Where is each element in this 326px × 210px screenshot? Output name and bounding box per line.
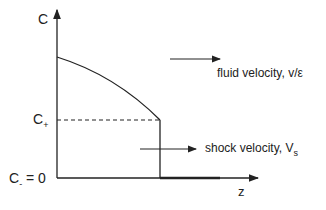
- shock-velocity-sub: s: [293, 148, 298, 158]
- x-axis-label: z: [238, 184, 245, 199]
- c-plus-sub: +: [43, 120, 48, 130]
- y-axis-label: C: [38, 11, 48, 27]
- c-minus-suffix: = 0: [22, 170, 46, 186]
- c-minus-sub: -: [19, 179, 22, 189]
- shock-velocity-main: shock velocity, V: [205, 141, 293, 155]
- shock-velocity-label: shock velocity, Vs: [205, 141, 298, 155]
- c-minus-main: C: [9, 170, 19, 186]
- concentration-profile-diagram: [0, 0, 326, 210]
- c-plus-main: C: [33, 111, 43, 127]
- concentration-curve: [57, 57, 160, 120]
- fluid-velocity-label: fluid velocity, v/ε: [217, 66, 303, 80]
- c-plus-label: C+: [33, 111, 48, 127]
- c-minus-label: C- = 0: [9, 170, 46, 186]
